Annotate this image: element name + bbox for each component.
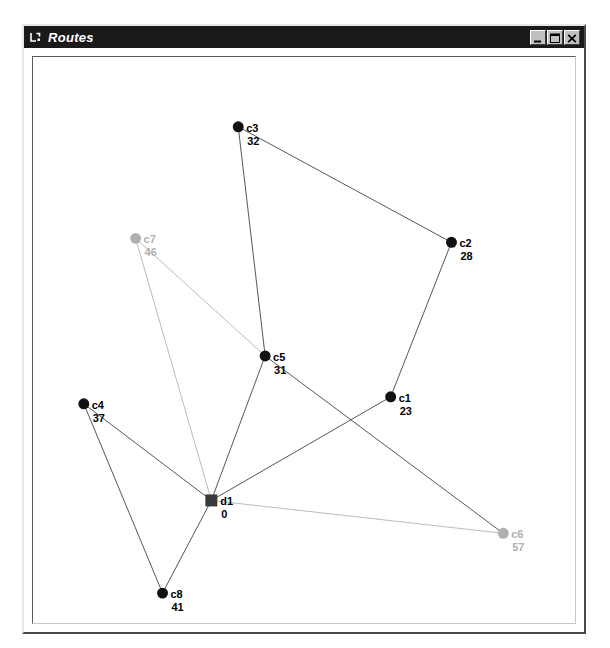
application-root: Routes d10c123c2 (0, 0, 610, 648)
route-graph-svg: d10c123c228c332c437c531c657c746c841 (33, 57, 575, 623)
route-edge-c4-c8 (84, 404, 163, 593)
edge-layer (84, 127, 503, 593)
customer-marker-c6[interactable] (498, 528, 509, 539)
route-edge-c5-d1 (211, 356, 265, 500)
graph-node-c3[interactable]: c332 (233, 121, 260, 146)
graph-node-d1[interactable]: d10 (205, 494, 233, 520)
node-value-c2: 28 (460, 250, 472, 262)
route-edge-c5-c6 (265, 356, 503, 533)
node-label-c4: c4 (92, 399, 105, 411)
node-label-c6: c6 (511, 528, 523, 540)
node-value-c4: 37 (93, 412, 105, 424)
customer-marker-c5[interactable] (260, 350, 271, 361)
customer-marker-c4[interactable] (78, 398, 89, 409)
node-value-c5: 31 (274, 364, 286, 376)
customer-marker-c3[interactable] (233, 121, 244, 132)
node-label-c2: c2 (459, 237, 471, 249)
node-layer: d10c123c228c332c437c531c657c746c841 (78, 121, 524, 613)
node-label-d1: d1 (220, 495, 233, 507)
route-edge-c2-c1 (391, 242, 452, 396)
window-title-bar[interactable]: Routes (24, 26, 584, 48)
close-button[interactable] (564, 30, 580, 45)
customer-marker-c2[interactable] (446, 237, 457, 248)
graph-node-c8[interactable]: c841 (157, 588, 184, 613)
node-label-c8: c8 (170, 588, 182, 600)
customer-marker-c7[interactable] (130, 233, 141, 244)
route-graph-canvas[interactable]: d10c123c228c332c437c531c657c746c841 (32, 56, 576, 624)
node-value-c3: 32 (247, 135, 259, 147)
node-label-c5: c5 (273, 351, 285, 363)
graph-node-c6[interactable]: c657 (498, 528, 525, 553)
graph-node-c2[interactable]: c228 (446, 237, 473, 262)
minimize-button[interactable] (530, 30, 546, 45)
node-value-c1: 23 (400, 405, 412, 417)
graph-node-c1[interactable]: c123 (385, 391, 412, 416)
node-label-c7: c7 (144, 233, 156, 245)
route-edge-c1-d1 (211, 397, 390, 501)
node-value-c6: 57 (512, 541, 524, 553)
depot-marker-d1[interactable] (205, 494, 217, 506)
node-value-d1: 0 (221, 508, 227, 520)
node-label-c3: c3 (246, 122, 258, 134)
customer-marker-c1[interactable] (385, 391, 396, 402)
maximize-button[interactable] (547, 30, 563, 45)
customer-marker-c8[interactable] (157, 588, 168, 599)
route-edge-c7-d1 (136, 238, 212, 500)
window-app-icon (28, 30, 43, 45)
route-edge-c3-c5 (238, 127, 265, 356)
graph-node-c5[interactable]: c531 (260, 350, 287, 375)
node-label-c1: c1 (399, 392, 411, 404)
graph-node-c4[interactable]: c437 (78, 398, 105, 423)
window-title-text: Routes (48, 30, 94, 45)
route-edge-c8-d1 (163, 500, 212, 593)
route-edge-d1-c6 (211, 500, 503, 533)
route-edge-c3-c2 (238, 127, 451, 243)
node-value-c8: 41 (171, 601, 183, 613)
node-value-c7: 46 (145, 246, 157, 258)
routes-window: Routes d10c123c2 (22, 24, 586, 634)
